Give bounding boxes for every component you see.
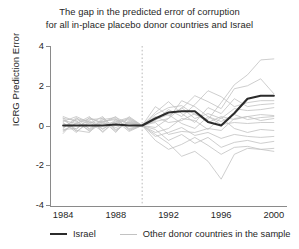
chart-legend: Israel Other donor countries in the samp… (50, 226, 294, 242)
legend-line-icon-others (120, 234, 137, 235)
y-tick-mark (46, 205, 50, 206)
legend-label-israel: Israel (73, 229, 96, 239)
x-tick-label: 2000 (252, 210, 296, 220)
chart-figure: The gap in the predicted error of corrup… (0, 0, 299, 249)
y-tick-label: 2 (0, 81, 44, 91)
chart-title-line-1: The gap in the predicted error of corrup… (0, 6, 299, 19)
legend-label-others: Other donor countries in the sample (143, 229, 291, 239)
x-tick-label: 1992 (147, 210, 191, 220)
x-axis-line (50, 206, 287, 207)
legend-entry-others: Other donor countries in the sample (120, 229, 291, 239)
y-tick-label: 4 (0, 41, 44, 51)
x-tick-label: 1988 (94, 210, 138, 220)
series-line-placebo (63, 118, 274, 180)
plot-area (50, 46, 287, 205)
legend-entry-israel: Israel (50, 229, 96, 239)
y-tick-label: -2 (0, 160, 44, 170)
chart-title-line-2: for all in-place placebo donor countries… (0, 19, 299, 32)
series-lines (50, 46, 287, 205)
series-line-placebo (63, 119, 274, 155)
x-tick-label: 1996 (199, 210, 243, 220)
y-tick-label: -4 (0, 200, 44, 210)
chart-title: The gap in the predicted error of corrup… (0, 6, 299, 31)
y-tick-label: 0 (0, 121, 44, 131)
x-tick-label: 1984 (41, 210, 85, 220)
legend-line-icon-israel (50, 233, 67, 235)
